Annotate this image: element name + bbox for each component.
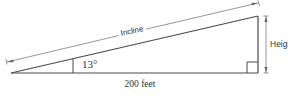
incline-dimension-line-right [146, 3, 258, 29]
angle-label: 13° [82, 58, 97, 70]
height-label: Height [270, 39, 288, 49]
height-dimension [264, 16, 269, 73]
height-arrow-up-icon [264, 17, 267, 23]
height-arrow-down-icon [264, 67, 267, 73]
triangle [11, 16, 258, 73]
incline-triangle-diagram: 13° Incline Height 200 feet [0, 0, 288, 96]
incline-tick-left [6, 59, 7, 65]
incline-tick-right [258, 1, 260, 7]
incline-dimension-line-left [7, 36, 119, 63]
incline-arrow-right-icon [251, 3, 258, 6]
incline-arrow-left-icon [7, 60, 14, 63]
base-label: 200 feet [125, 79, 156, 89]
right-angle-marker [247, 62, 258, 73]
incline-label: Incline [120, 24, 145, 38]
hypotenuse-side [11, 16, 258, 73]
